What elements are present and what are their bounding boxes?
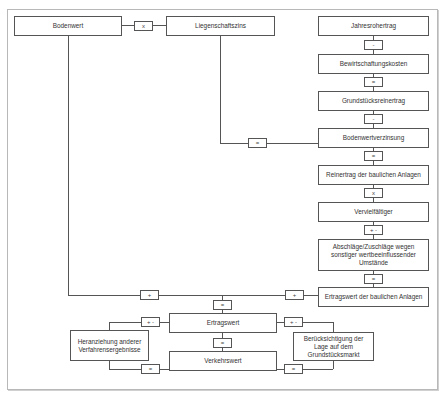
connector-line [109,369,169,370]
node-liegenschaftszins: Liegenschaftszins [166,16,275,36]
operator-equals: = [213,338,232,348]
node-abschlaege-zuschlaege: Abschläge/Zuschläge wegen sonstiger wert… [318,239,429,271]
connector-line [68,295,318,296]
operator-plus-minus: + - [284,317,303,327]
node-grundstuecksreinertrag: Grundstücksreinertrag [318,91,429,111]
node-bewirtschaftungskosten: Bewirtschaftungskosten [318,54,429,74]
operator-equals: = [248,138,267,148]
operator-minus: - [364,40,383,50]
connector-line [220,143,318,144]
connector-line [333,360,334,369]
connector-line [68,35,69,295]
node-reinertrag-bauliche-anlagen: Reinertrag der baulichen Anlagen [318,165,429,185]
connector-line [109,322,169,323]
operator-equals: = [284,364,303,374]
connector-line [220,35,221,143]
node-bodenwertverzinsung: Bodenwertverzinsung [318,128,429,148]
operator-multiply: x [134,21,153,31]
node-heranziehung: Heranziehung anderer Verfahrensergebniss… [70,330,149,361]
connector-line [333,322,334,332]
node-bodenwert: Bodenwert [14,16,122,36]
operator-plus: + [140,290,159,300]
connector-line [109,360,110,369]
operator-plus: + [285,290,304,300]
operator-minus: - [364,114,383,124]
operator-equals: = [141,364,160,374]
node-vervielfaeltiger: Vervielfältiger [318,202,429,222]
operator-plus-minus: + - [364,225,383,235]
operator-equals: = [213,300,232,310]
node-jahresrohertrag: Jahresrohertrag [318,16,429,36]
connector-line [109,322,110,330]
node-beruecksichtigung-lage: Berücksichtigung der Lage auf dem Grunds… [293,332,374,361]
operator-equals: = [364,77,383,87]
operator-plus-minus: + - [141,317,160,327]
operator-equals: = [364,274,383,284]
node-verkehrswert: Verkehrswert [169,351,277,371]
node-ertragswert-bauliche-anlagen: Ertragswert der baulichen Anlagen [318,287,429,307]
operator-equals: = [364,151,383,161]
node-ertragswert: Ertragswert [169,313,277,333]
operator-multiply: x [364,188,383,198]
